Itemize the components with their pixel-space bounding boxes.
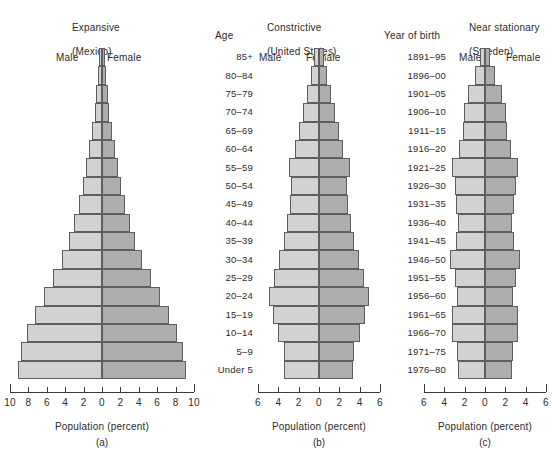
bar-male <box>287 214 319 232</box>
bar-male <box>62 250 102 268</box>
bar-female <box>485 342 513 360</box>
age-group-label: 80–84 <box>197 70 253 82</box>
bar-female <box>319 269 364 287</box>
x-axis-tick <box>444 387 445 392</box>
x-axis-tick-label: 4 <box>131 397 147 408</box>
x-axis-tick-label: 2 <box>291 397 307 408</box>
bar-male <box>475 66 485 84</box>
bar-female <box>319 232 354 250</box>
bar-male <box>89 140 102 158</box>
bar-male <box>44 287 102 305</box>
bar-female <box>319 361 353 379</box>
age-group-label: 35–39 <box>197 235 253 247</box>
year-column-header: Year of birth <box>384 30 440 41</box>
x-axis-tick <box>465 387 466 392</box>
age-group-label: 40–44 <box>197 217 253 229</box>
bar-male <box>457 342 485 360</box>
x-axis-tick <box>120 387 121 392</box>
x-axis-tick <box>28 387 29 392</box>
x-axis-tick-label: 2 <box>112 397 128 408</box>
bar-female <box>319 158 350 176</box>
bar-female <box>319 122 339 140</box>
bar-male <box>452 158 485 176</box>
bar-female <box>102 361 186 379</box>
bar-male <box>18 361 102 379</box>
panel-c-letter: (c) <box>465 437 505 448</box>
bar-female <box>485 140 511 158</box>
x-axis-tick-label: 6 <box>538 397 552 408</box>
age-group-label: 30–34 <box>197 254 253 266</box>
x-axis-tick-label: 2 <box>76 397 92 408</box>
bar-female <box>485 214 512 232</box>
x-axis-tick <box>278 387 279 392</box>
age-column-header: Age <box>215 30 233 41</box>
bar-female <box>102 287 160 305</box>
x-axis-tick-label: 0 <box>94 397 110 408</box>
bar-male <box>273 306 319 324</box>
bar-female <box>485 269 516 287</box>
bar-male <box>459 140 485 158</box>
age-group-label: 50–54 <box>197 180 253 192</box>
bar-female <box>319 48 324 66</box>
x-axis-line <box>258 392 380 393</box>
bar-female <box>485 158 518 176</box>
bar-female <box>102 269 151 287</box>
bar-male <box>284 342 319 360</box>
bar-male <box>295 140 319 158</box>
bar-female <box>102 122 112 140</box>
panel-a-plot: 1086420246810 <box>10 44 195 393</box>
bar-male <box>291 177 319 195</box>
bar-female <box>485 250 520 268</box>
bar-male <box>452 306 485 324</box>
x-axis-tick <box>84 387 85 392</box>
bar-male <box>284 361 319 379</box>
panel-c-axis-caption: Population (percent) <box>415 421 552 432</box>
panel-b-plot: 6420246 <box>258 44 380 393</box>
bar-male <box>79 195 102 213</box>
x-axis-tick <box>360 387 361 392</box>
bar-male <box>27 324 102 342</box>
age-group-label: 5–9 <box>197 346 253 358</box>
bar-male <box>269 287 319 305</box>
bar-female <box>102 48 105 66</box>
age-label-column: Age 85+80–8475–7970–7465–6960–6455–5950–… <box>197 0 257 454</box>
bar-female <box>485 287 513 305</box>
bar-female <box>102 140 115 158</box>
x-axis-tick <box>485 387 486 392</box>
bar-female <box>319 342 354 360</box>
bar-female <box>485 324 518 342</box>
x-axis-tick-label: 8 <box>168 397 184 408</box>
age-group-label: 75–79 <box>197 88 253 100</box>
x-axis-tick-label: 6 <box>250 397 266 408</box>
bar-male <box>284 232 319 250</box>
bar-female <box>485 66 495 84</box>
x-axis-tick <box>102 387 103 392</box>
x-axis-tick-label: 6 <box>149 397 165 408</box>
age-group-label: 65–69 <box>197 125 253 137</box>
bar-female <box>102 158 118 176</box>
bar-male <box>53 269 102 287</box>
bar-female <box>102 66 106 84</box>
bar-male <box>456 232 485 250</box>
x-axis-tick <box>546 384 547 392</box>
panel-a-axis-caption: Population (percent) <box>32 421 172 432</box>
bar-male <box>92 122 102 140</box>
x-axis-tick-label: 2 <box>497 397 513 408</box>
panel-b-letter: (b) <box>299 437 339 448</box>
bar-male <box>458 214 485 232</box>
bar-male <box>303 103 319 121</box>
x-axis-tick-label: 6 <box>416 397 432 408</box>
bar-female <box>102 324 177 342</box>
bar-female <box>102 250 142 268</box>
bar-male <box>455 177 486 195</box>
bar-female <box>102 85 108 103</box>
x-axis-tick <box>176 387 177 392</box>
bar-female <box>319 195 348 213</box>
bar-female <box>102 306 169 324</box>
x-axis-tick <box>65 387 66 392</box>
age-group-label: 85+ <box>197 51 253 63</box>
bar-female <box>319 85 331 103</box>
age-group-label: 15–19 <box>197 309 253 321</box>
panel-b-title-line1: Constrictive <box>267 22 322 33</box>
x-axis-tick-label: 4 <box>270 397 286 408</box>
